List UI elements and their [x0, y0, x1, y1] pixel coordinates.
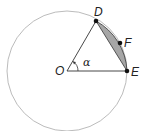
- label-f: F: [124, 36, 132, 50]
- circle-diagram: O D F E α: [0, 0, 152, 131]
- point-f: [118, 41, 123, 46]
- point-e: [125, 69, 130, 74]
- point-d: [94, 19, 99, 24]
- diagram-canvas: O D F E α: [0, 0, 152, 131]
- radius-od: [67, 21, 96, 71]
- label-d: D: [94, 5, 103, 19]
- label-o: O: [55, 64, 64, 78]
- label-e: E: [131, 65, 140, 79]
- label-alpha: α: [83, 56, 91, 69]
- shaded-segment: [96, 21, 127, 71]
